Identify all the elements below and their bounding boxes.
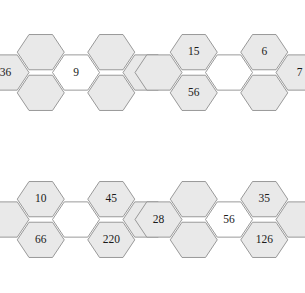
hex-cell-upper-left[interactable]	[170, 182, 217, 217]
hex-cell-upper-left[interactable]	[17, 35, 64, 70]
cluster-bottom-left-svg: 104522066	[0, 147, 152, 293]
hex-cell-lower-right[interactable]	[241, 75, 288, 110]
hex-cell-lower-left[interactable]	[170, 75, 217, 110]
hex-cell-lower-left[interactable]	[170, 222, 217, 257]
hex-cell-upper-right[interactable]	[241, 182, 288, 217]
hex-cell-upper-left[interactable]	[170, 35, 217, 70]
hex-cell-center[interactable]	[206, 202, 253, 237]
cluster-top-right: 156756	[153, 0, 305, 146]
hex-cell-lower-left[interactable]	[17, 75, 64, 110]
hex-cell-upper-right[interactable]	[88, 182, 135, 217]
hex-cell-center[interactable]	[53, 202, 100, 237]
hex-cell-center[interactable]	[53, 55, 100, 90]
cluster-top-left-svg: 1369	[0, 0, 152, 146]
hex-cell-upper-left[interactable]	[17, 182, 64, 217]
hex-cell-lower-left[interactable]	[17, 222, 64, 257]
hex-cell-lower-right[interactable]	[241, 222, 288, 257]
cluster-bottom-right: 351262856	[153, 147, 305, 293]
cluster-top-left: 1369	[0, 0, 152, 146]
cluster-bottom-right-svg: 351262856	[153, 147, 305, 293]
hex-cell-upper-right[interactable]	[241, 35, 288, 70]
hex-cell-center[interactable]	[206, 55, 253, 90]
hex-cell-lower-right[interactable]	[88, 222, 135, 257]
hex-cell-upper-right[interactable]	[88, 35, 135, 70]
cluster-top-right-svg: 156756	[153, 0, 305, 146]
hex-cell-lower-right[interactable]	[88, 75, 135, 110]
hexagon-puzzle-figure: 1369156756104522066351262856	[0, 0, 305, 293]
cluster-bottom-left: 104522066	[0, 147, 152, 293]
